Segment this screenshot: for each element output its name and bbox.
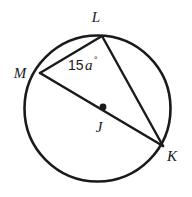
geometry-figure: L M K J 15 a °	[0, 0, 192, 197]
angle-measure-number: 15	[68, 57, 84, 73]
chord-segment-lk	[102, 36, 163, 146]
center-label-j: J	[96, 119, 104, 135]
angle-measure-degree-icon: °	[94, 55, 98, 65]
angle-measure-label: 15 a °	[68, 55, 98, 73]
center-point-dot-j	[100, 104, 107, 111]
circle-diagram-canvas: L M K J 15 a °	[0, 0, 192, 197]
vertex-label-l: L	[91, 9, 100, 25]
vertex-label-m: M	[13, 65, 28, 81]
vertex-label-k: K	[166, 148, 178, 164]
angle-measure-variable: a	[85, 57, 93, 73]
